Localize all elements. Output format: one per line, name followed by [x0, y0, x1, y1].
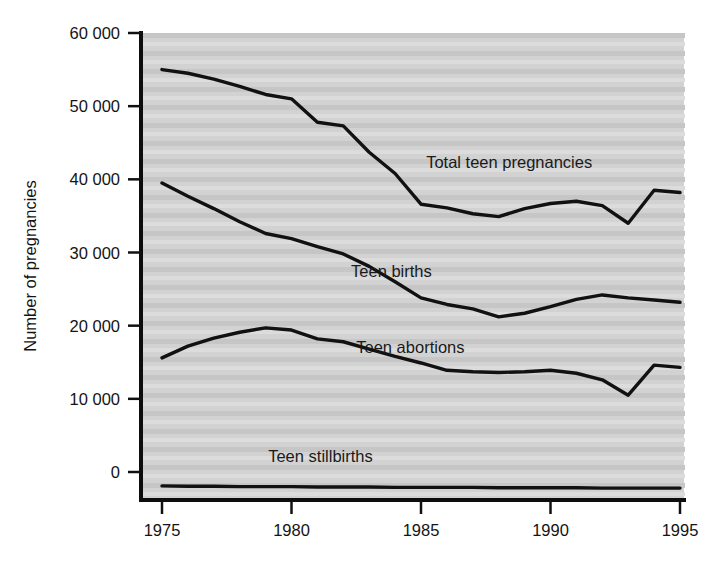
y-axis-title: Number of pregnancies [21, 180, 39, 352]
shading-band [142, 411, 685, 416]
line-chart-svg: 010 00020 00030 00040 00050 00060 000 19… [0, 0, 721, 564]
shading-band [142, 429, 685, 434]
shading-band [142, 285, 685, 290]
shading-band [142, 60, 685, 64]
y-tick-label: 30 000 [70, 244, 120, 262]
shading-band [142, 492, 685, 496]
shading-band [142, 123, 685, 128]
series-label-teen-stillbirths: Teen stillbirths [268, 447, 373, 465]
shading-band [142, 33, 685, 38]
shading-band [142, 168, 685, 172]
shading-band [142, 366, 685, 370]
series-label-total-teen-pregnancies: Total teen pregnancies [426, 153, 592, 171]
shading-band [142, 465, 685, 470]
x-tick-label: 1985 [403, 521, 440, 539]
shading-band [142, 132, 685, 136]
x-tick-label: 1975 [144, 521, 181, 539]
shading-band [142, 402, 685, 406]
shading-band [142, 321, 685, 326]
shading-band [142, 114, 685, 118]
shading-band [142, 312, 685, 316]
shading-band [142, 456, 685, 460]
shading-band [142, 393, 685, 398]
y-tick-label: 20 000 [70, 317, 120, 335]
shading-band [142, 96, 685, 100]
shading-band [142, 303, 685, 308]
x-tick-label: 1980 [273, 521, 310, 539]
shading-band [142, 159, 685, 164]
shading-band [142, 51, 685, 56]
shading-band [142, 249, 685, 254]
shading-band [142, 69, 685, 74]
shading-band [142, 222, 685, 226]
y-tick-label: 60 000 [70, 24, 120, 42]
shading-band [142, 330, 685, 334]
shading-band [142, 420, 685, 424]
shading-band [142, 105, 685, 110]
shading-band [142, 474, 685, 478]
shading-band [142, 150, 685, 154]
shading-band [142, 384, 685, 388]
shading-band [142, 240, 685, 244]
x-tick-label: 1990 [532, 521, 569, 539]
shading-band [142, 438, 685, 442]
shading-band [142, 42, 685, 46]
shading-band [142, 141, 685, 146]
x-tick-label: 1995 [662, 521, 699, 539]
chart-figure: 010 00020 00030 00040 00050 00060 000 19… [0, 0, 721, 564]
y-tick-label: 0 [111, 463, 120, 481]
shading-band [142, 231, 685, 236]
y-tick-label: 40 000 [70, 170, 120, 188]
shading-band [142, 177, 685, 182]
y-tick-label: 10 000 [70, 390, 120, 408]
shading-band [142, 87, 685, 92]
shading-band [142, 186, 685, 190]
y-tick-label: 50 000 [70, 97, 120, 115]
series-label-teen-abortions: Teen abortions [356, 338, 464, 356]
series-label-teen-births: Teen births [351, 262, 432, 280]
shading-band [142, 447, 685, 452]
